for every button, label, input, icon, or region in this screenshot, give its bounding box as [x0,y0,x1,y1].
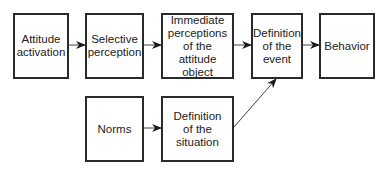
node-behavior: Behavior [319,13,375,79]
node-definition-situation: Definition of the situation [161,96,234,162]
node-attitude-activation: Attitude activation [13,13,69,79]
node-definition-event: Definition of the event [251,13,303,79]
arrow-situation-to-event [234,79,276,127]
node-norms: Norms [85,96,144,162]
node-immediate-perceptions: Immediate perceptions of the attitude ob… [161,13,234,79]
node-selective-perception: Selective perception [85,13,144,79]
